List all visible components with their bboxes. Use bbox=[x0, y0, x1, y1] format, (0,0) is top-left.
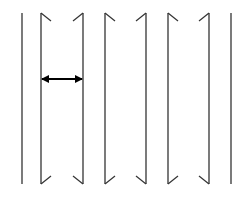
vertical-line-7 bbox=[199, 13, 209, 184]
vertical-line-5 bbox=[136, 13, 146, 184]
top-hook bbox=[168, 13, 178, 21]
bottom-hook bbox=[199, 176, 209, 184]
bottom-hook bbox=[168, 176, 178, 184]
parallel-lines-diagram bbox=[0, 0, 241, 198]
vertical-line-4 bbox=[105, 13, 115, 184]
vertical-line-6 bbox=[168, 13, 178, 184]
bottom-hook bbox=[41, 176, 51, 184]
bottom-hook bbox=[73, 176, 83, 184]
top-hook bbox=[199, 13, 209, 21]
vertical-line-2 bbox=[41, 13, 51, 184]
top-hook bbox=[41, 13, 51, 21]
bottom-hook bbox=[105, 176, 115, 184]
bottom-hook bbox=[136, 176, 146, 184]
top-hook bbox=[73, 13, 83, 21]
vertical-line-3 bbox=[73, 13, 83, 184]
top-hook bbox=[136, 13, 146, 21]
vertical-lines-group bbox=[22, 13, 231, 184]
top-hook bbox=[105, 13, 115, 21]
